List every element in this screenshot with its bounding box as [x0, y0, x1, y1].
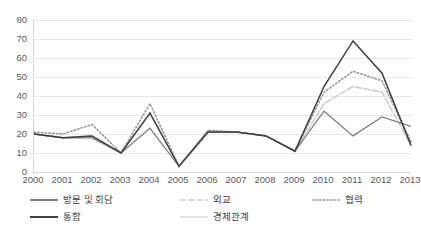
- y-axis-tick-label: 50: [16, 72, 27, 82]
- legend-label: 방문 및 회담: [63, 195, 113, 205]
- legend-item[interactable]: 경제관계: [180, 210, 249, 224]
- chart-legend: 방문 및 회담외교협력통합경제관계: [30, 193, 415, 231]
- legend-swatch-icon: [180, 212, 208, 222]
- series-line: [34, 87, 411, 167]
- x-axis-tick-label: 2009: [283, 174, 304, 185]
- x-axis-tick-label: 2013: [399, 174, 420, 185]
- series-line: [34, 87, 411, 167]
- x-axis-tick-label: 2001: [51, 174, 72, 185]
- series-line: [34, 41, 411, 166]
- y-axis-tick-label: 60: [16, 53, 27, 63]
- x-axis-tick-label: 2002: [80, 174, 101, 185]
- legend-item[interactable]: 통합: [30, 210, 81, 224]
- legend-item[interactable]: 방문 및 회담: [30, 193, 113, 207]
- legend-item[interactable]: 협력: [312, 193, 363, 207]
- x-axis: 2000200120022003200420052006200720082009…: [33, 174, 410, 190]
- y-axis: 80706050403020100: [0, 0, 30, 190]
- x-axis-tick-label: 2008: [254, 174, 275, 185]
- legend-label: 외교: [213, 195, 231, 205]
- x-axis-tick-label: 2011: [342, 174, 362, 185]
- line-chart: 80706050403020100 2000200120022003200420…: [0, 0, 421, 234]
- x-axis-tick-label: 2004: [138, 174, 159, 185]
- series-line: [34, 71, 411, 166]
- x-axis-tick-label: 2006: [196, 174, 217, 185]
- y-axis-tick-label: 30: [16, 110, 27, 120]
- data-series-layer: [34, 20, 411, 172]
- plot-wrapper: 80706050403020100 2000200120022003200420…: [0, 0, 421, 190]
- legend-swatch-icon: [180, 195, 208, 205]
- y-axis-tick-label: 40: [16, 91, 27, 101]
- legend-swatch-icon: [312, 195, 340, 205]
- x-axis-tick-label: 2000: [22, 174, 43, 185]
- y-axis-tick-label: 70: [16, 34, 27, 44]
- x-axis-tick-label: 2007: [225, 174, 246, 185]
- y-axis-tick-label: 80: [16, 15, 27, 25]
- legend-swatch-icon: [30, 195, 58, 205]
- legend-label: 통합: [63, 212, 81, 222]
- x-axis-tick-label: 2012: [370, 174, 391, 185]
- y-axis-tick-label: 20: [16, 129, 27, 139]
- x-axis-tick-label: 2003: [109, 174, 130, 185]
- legend-label: 경제관계: [213, 212, 249, 222]
- x-axis-tick-label: 2010: [312, 174, 333, 185]
- legend-label: 협력: [345, 195, 363, 205]
- y-axis-tick-label: 10: [16, 148, 27, 158]
- series-line: [34, 111, 411, 166]
- plot-area: [33, 20, 411, 173]
- legend-item[interactable]: 외교: [180, 193, 231, 207]
- x-axis-tick-label: 2005: [167, 174, 188, 185]
- legend-swatch-icon: [30, 212, 58, 222]
